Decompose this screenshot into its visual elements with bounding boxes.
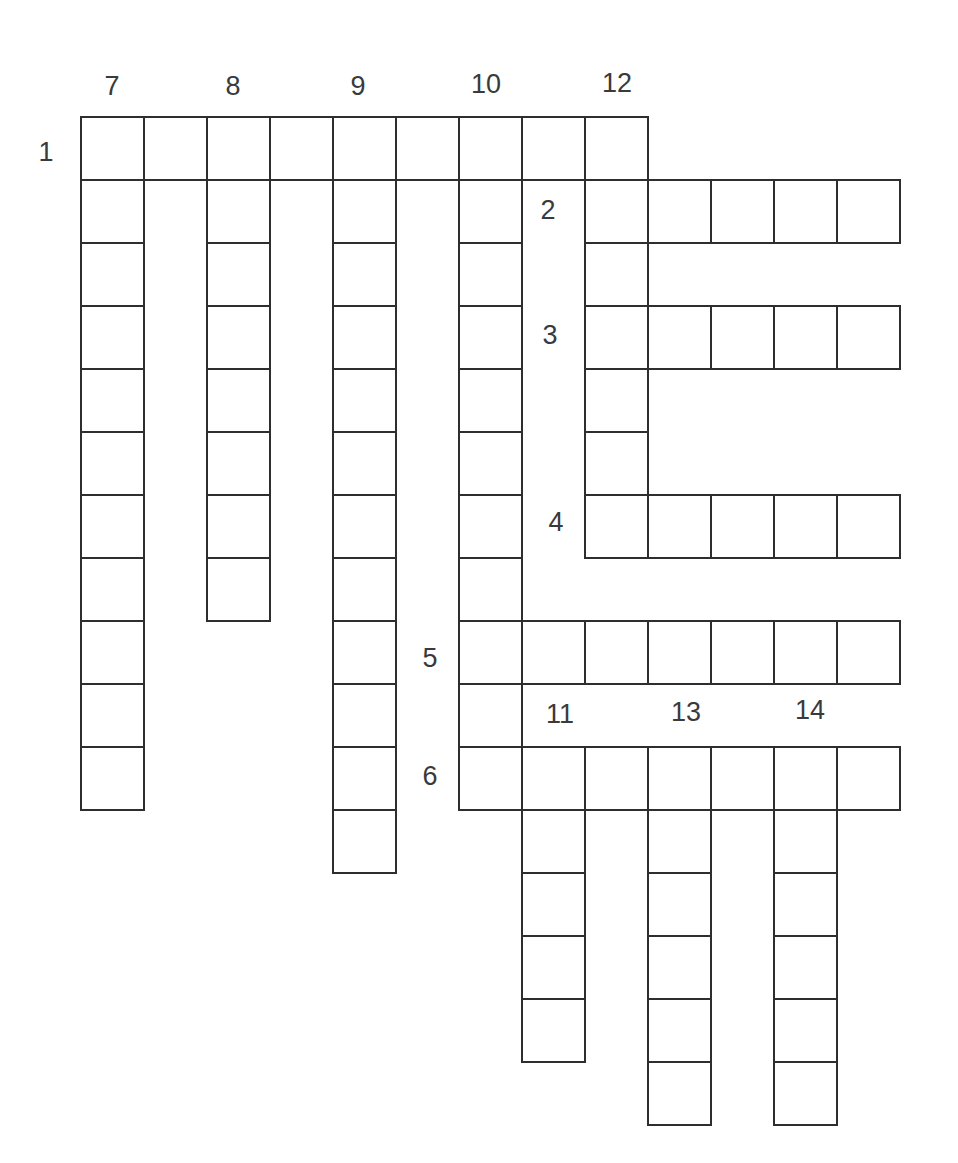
crossword-cell[interactable] bbox=[710, 746, 775, 811]
crossword-cell[interactable] bbox=[647, 620, 712, 685]
crossword-cell[interactable] bbox=[773, 746, 838, 811]
crossword-cell[interactable] bbox=[332, 746, 397, 811]
crossword-cell[interactable] bbox=[773, 179, 838, 244]
crossword-cell[interactable] bbox=[332, 620, 397, 685]
crossword-cell[interactable] bbox=[773, 620, 838, 685]
crossword-cell[interactable] bbox=[458, 557, 523, 622]
crossword-cell[interactable] bbox=[773, 998, 838, 1063]
crossword-cell[interactable] bbox=[458, 683, 523, 748]
crossword-cell[interactable] bbox=[710, 305, 775, 370]
crossword-cell[interactable] bbox=[332, 242, 397, 307]
crossword-cell[interactable] bbox=[332, 683, 397, 748]
crossword-cell[interactable] bbox=[80, 620, 145, 685]
crossword-cell[interactable] bbox=[458, 494, 523, 559]
crossword-cell[interactable] bbox=[647, 1061, 712, 1126]
crossword-cell[interactable] bbox=[458, 305, 523, 370]
crossword-cell[interactable] bbox=[206, 431, 271, 496]
crossword-cell[interactable] bbox=[80, 683, 145, 748]
crossword-cell[interactable] bbox=[773, 935, 838, 1000]
crossword-cell[interactable] bbox=[521, 872, 586, 937]
crossword-cell[interactable] bbox=[647, 998, 712, 1063]
crossword-cell[interactable] bbox=[206, 116, 271, 181]
crossword-cell[interactable] bbox=[332, 809, 397, 874]
clue-number-label: 9 bbox=[350, 73, 365, 100]
crossword-cell[interactable] bbox=[647, 872, 712, 937]
crossword-cell[interactable] bbox=[332, 494, 397, 559]
crossword-cell[interactable] bbox=[206, 242, 271, 307]
crossword-cell[interactable] bbox=[80, 305, 145, 370]
crossword-cell[interactable] bbox=[80, 368, 145, 433]
crossword-cell[interactable] bbox=[584, 179, 649, 244]
crossword-cell[interactable] bbox=[80, 557, 145, 622]
crossword-cell[interactable] bbox=[206, 557, 271, 622]
crossword-cell[interactable] bbox=[773, 872, 838, 937]
clue-number-label: 5 bbox=[422, 645, 437, 672]
crossword-cell[interactable] bbox=[836, 620, 901, 685]
crossword-cell[interactable] bbox=[584, 494, 649, 559]
crossword-cell[interactable] bbox=[269, 116, 334, 181]
clue-number-label: 3 bbox=[542, 322, 557, 349]
crossword-cell[interactable] bbox=[584, 620, 649, 685]
crossword-cell[interactable] bbox=[206, 305, 271, 370]
crossword-cell[interactable] bbox=[332, 179, 397, 244]
crossword-cell[interactable] bbox=[521, 809, 586, 874]
crossword-cell[interactable] bbox=[836, 179, 901, 244]
crossword-cell[interactable] bbox=[521, 746, 586, 811]
crossword-cell[interactable] bbox=[584, 431, 649, 496]
crossword-cell[interactable] bbox=[836, 746, 901, 811]
crossword-cell[interactable] bbox=[458, 116, 523, 181]
crossword-cell[interactable] bbox=[836, 494, 901, 559]
crossword-cell[interactable] bbox=[584, 746, 649, 811]
crossword-cell[interactable] bbox=[773, 494, 838, 559]
crossword-cell[interactable] bbox=[80, 431, 145, 496]
crossword-cell[interactable] bbox=[521, 998, 586, 1063]
crossword-cell[interactable] bbox=[458, 179, 523, 244]
crossword-cell[interactable] bbox=[773, 305, 838, 370]
crossword-cell[interactable] bbox=[332, 431, 397, 496]
crossword-cell[interactable] bbox=[647, 494, 712, 559]
crossword-cell[interactable] bbox=[458, 746, 523, 811]
crossword-cell[interactable] bbox=[773, 1061, 838, 1126]
clue-number-label: 12 bbox=[602, 70, 632, 97]
crossword-cell[interactable] bbox=[80, 242, 145, 307]
crossword-cell[interactable] bbox=[647, 179, 712, 244]
crossword-cell[interactable] bbox=[584, 242, 649, 307]
crossword-cell[interactable] bbox=[521, 935, 586, 1000]
crossword-cell[interactable] bbox=[584, 368, 649, 433]
crossword-cell[interactable] bbox=[458, 620, 523, 685]
crossword-cell[interactable] bbox=[584, 116, 649, 181]
crossword-cell[interactable] bbox=[836, 305, 901, 370]
crossword-cell[interactable] bbox=[80, 494, 145, 559]
crossword-cell[interactable] bbox=[458, 368, 523, 433]
crossword-cell[interactable] bbox=[80, 179, 145, 244]
crossword-cell[interactable] bbox=[710, 179, 775, 244]
crossword-cell[interactable] bbox=[647, 935, 712, 1000]
clue-number-label: 4 bbox=[548, 509, 563, 536]
crossword-cell[interactable] bbox=[647, 809, 712, 874]
crossword-cell[interactable] bbox=[710, 494, 775, 559]
clue-number-label: 13 bbox=[671, 699, 701, 726]
crossword-cell[interactable] bbox=[521, 116, 586, 181]
crossword-cell[interactable] bbox=[206, 179, 271, 244]
clue-number-label: 1 bbox=[38, 139, 53, 166]
clue-number-label: 11 bbox=[546, 701, 574, 728]
crossword-cell[interactable] bbox=[332, 305, 397, 370]
crossword-cell[interactable] bbox=[458, 431, 523, 496]
crossword-cell[interactable] bbox=[647, 305, 712, 370]
crossword-cell[interactable] bbox=[80, 746, 145, 811]
crossword-cell[interactable] bbox=[647, 746, 712, 811]
crossword-cell[interactable] bbox=[458, 242, 523, 307]
crossword-cell[interactable] bbox=[206, 368, 271, 433]
crossword-cell[interactable] bbox=[332, 368, 397, 433]
crossword-cell[interactable] bbox=[332, 116, 397, 181]
crossword-cell[interactable] bbox=[395, 116, 460, 181]
crossword-cell[interactable] bbox=[332, 557, 397, 622]
clue-number-label: 14 bbox=[795, 697, 825, 724]
crossword-cell[interactable] bbox=[710, 620, 775, 685]
crossword-cell[interactable] bbox=[143, 116, 208, 181]
crossword-cell[interactable] bbox=[80, 116, 145, 181]
crossword-cell[interactable] bbox=[206, 494, 271, 559]
crossword-cell[interactable] bbox=[773, 809, 838, 874]
crossword-cell[interactable] bbox=[584, 305, 649, 370]
crossword-cell[interactable] bbox=[521, 620, 586, 685]
